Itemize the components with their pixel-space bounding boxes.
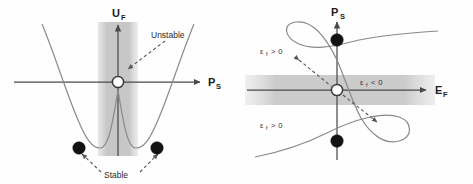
eps-sub-lower: f (266, 125, 268, 131)
y-axis-label-ps: P (331, 6, 338, 18)
y-axis-sub-s: S (340, 12, 345, 21)
eps-symbol-lower: ε (260, 121, 264, 130)
eps-symbol-band: ε (360, 78, 364, 87)
eps-symbol-upper: ε (260, 47, 264, 56)
x-axis-sub-s: S (216, 82, 221, 91)
y-axis-sub-f: F (121, 13, 126, 22)
marker-unstable-maximum (112, 76, 123, 87)
marker-origin-unstable-point (331, 84, 342, 95)
marker-remanent-polarization-negative (331, 135, 343, 147)
eps-relation-lower: > 0 (271, 121, 283, 130)
panel-s-curve-polarization: P S E F ε f > 0 ε f < 0 ε f > 0 (233, 0, 473, 184)
eps-relation-upper: > 0 (271, 47, 283, 56)
annotation-eps-positive-upper: ε f > 0 (260, 47, 283, 57)
eps-relation-band: < 0 (371, 78, 383, 87)
annotation-unstable: Unstable (151, 30, 185, 40)
y-axis-label-uf: U (112, 7, 120, 19)
figure-root: U F P S Unstable Stable (0, 0, 473, 184)
annotation-eps-negative-band: ε f < 0 (360, 78, 383, 88)
s-curve-svg: P S E F ε f > 0 ε f < 0 ε f > 0 (233, 0, 473, 184)
x-axis-label-ps: P (208, 76, 215, 88)
eps-sub-upper: f (266, 51, 268, 57)
marker-remanent-polarization-positive (331, 34, 343, 46)
marker-stable-minimum-right (151, 142, 163, 154)
x-axis-label-ef: E (435, 84, 442, 96)
x-axis-sub-f: F (443, 90, 448, 99)
marker-stable-minimum-left (73, 142, 85, 154)
annotation-stable: Stable (104, 170, 128, 180)
stable-pointer-arrow-left (82, 154, 101, 172)
annotation-eps-positive-lower: ε f > 0 (260, 121, 283, 131)
stable-pointer-arrow-right (140, 154, 158, 172)
panel-double-well-potential: U F P S Unstable Stable (0, 0, 240, 184)
double-well-svg: U F P S Unstable Stable (0, 0, 240, 184)
